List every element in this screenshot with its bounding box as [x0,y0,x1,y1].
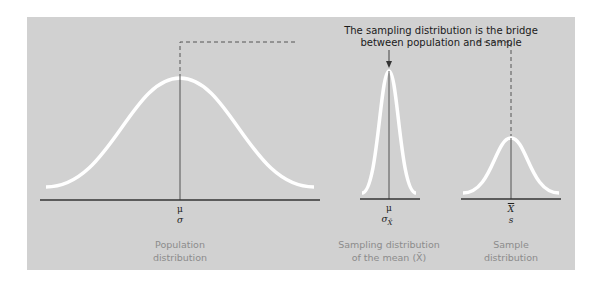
sample-xbar-symbol: X [508,204,514,214]
population-caption-line-2: distribution [130,251,230,264]
population-mu-label: μ [165,204,195,215]
sampling-caption-line-2: of the mean (X̄) [334,251,444,264]
title-line-1: The sampling distribution is the bridge [296,25,586,37]
sample-xbar-label: X [496,204,526,215]
sample-caption-line-1: Sample [471,238,551,251]
population-sigma-label: σ [165,215,195,226]
bridge-title: The sampling distribution is the bridge … [296,25,586,49]
sample-caption: Sample distribution [471,238,551,264]
sampling-sigma-label: σX̄ [372,214,402,229]
bridge-arrow-head [386,61,392,68]
sampling-caption-line-1: Sampling distribution [334,238,444,251]
bridge-dashed-right [477,42,511,136]
sample-caption-line-2: distribution [471,251,551,264]
sampling-sigma-subscript: X̄ [388,219,393,227]
population-caption-line-1: Population [130,238,230,251]
sample-s-label: s [496,215,526,226]
bridge-dashed-left [180,42,298,78]
population-caption: Population distribution [130,238,230,264]
sampling-caption: Sampling distribution of the mean (X̄) [334,238,444,264]
title-line-2: between population and sample [296,37,586,49]
sampling-mu-label: μ [374,203,404,214]
